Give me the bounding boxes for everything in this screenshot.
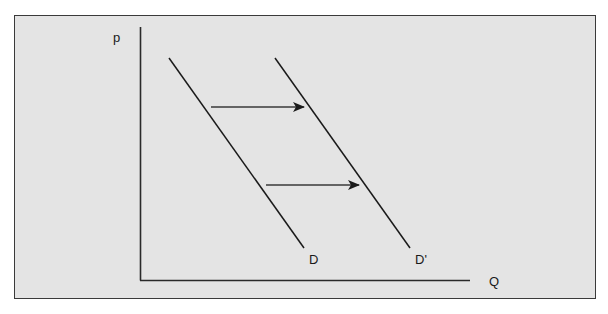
x-axis-label: Q (489, 274, 499, 289)
curve-label-d-prime: D' (415, 252, 427, 267)
y-axis-label: p (113, 30, 120, 45)
demand-shift-diagram: p Q D D' (0, 0, 608, 314)
demand-curve-d (169, 58, 304, 248)
demand-curve-d-prime (275, 58, 410, 248)
curve-label-d: D (309, 252, 318, 267)
